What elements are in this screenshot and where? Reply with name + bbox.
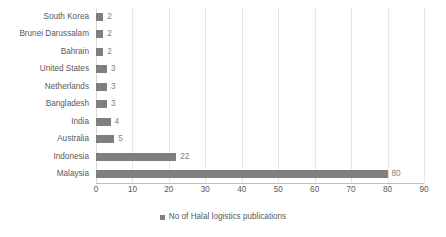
bar-row: South Korea2 bbox=[96, 8, 424, 26]
bar-value-label: 22 bbox=[180, 153, 189, 161]
bar-row: United States3 bbox=[96, 61, 424, 79]
bar-row: Indonesia22 bbox=[96, 148, 424, 166]
bar-value-label: 3 bbox=[111, 100, 116, 108]
x-tick-label: 40 bbox=[237, 186, 246, 194]
bar-row: Netherlands3 bbox=[96, 78, 424, 96]
bar bbox=[96, 65, 107, 73]
bar-value-label: 3 bbox=[111, 65, 116, 73]
category-label: Malaysia bbox=[57, 170, 89, 178]
x-axis-line bbox=[96, 183, 424, 184]
bar-value-label: 2 bbox=[107, 13, 112, 21]
category-label: Australia bbox=[57, 135, 89, 143]
bar bbox=[96, 83, 107, 91]
bar-row: India4 bbox=[96, 113, 424, 131]
category-label: United States bbox=[40, 65, 89, 73]
x-tick-label: 60 bbox=[310, 186, 319, 194]
x-tick-label: 50 bbox=[274, 186, 283, 194]
bar bbox=[96, 153, 176, 161]
x-tick-label: 10 bbox=[128, 186, 137, 194]
bar-value-label: 4 bbox=[115, 118, 120, 126]
category-label: Brunei Darussalam bbox=[19, 30, 89, 38]
plot-area: South Korea2Brunei Darussalam2Bahrain2Un… bbox=[96, 8, 424, 183]
legend-marker-icon bbox=[160, 215, 165, 220]
category-label: Bahrain bbox=[61, 48, 89, 56]
category-label: Bangladesh bbox=[46, 100, 89, 108]
x-axis-tick-labels: 0102030405060708090 bbox=[96, 186, 424, 200]
bar bbox=[96, 48, 103, 56]
bar-row: Bangladesh3 bbox=[96, 96, 424, 114]
bar-value-label: 2 bbox=[107, 48, 112, 56]
bar bbox=[96, 118, 111, 126]
x-tick-label: 20 bbox=[164, 186, 173, 194]
bar-value-label: 5 bbox=[118, 135, 123, 143]
category-label: Netherlands bbox=[45, 83, 89, 91]
bar-value-label: 3 bbox=[111, 83, 116, 91]
category-label: South Korea bbox=[43, 13, 89, 21]
bar bbox=[96, 100, 107, 108]
bar bbox=[96, 30, 103, 38]
chart-legend: No of Halal logistics publications bbox=[0, 213, 446, 221]
bar-value-label: 80 bbox=[392, 170, 401, 178]
bar bbox=[96, 135, 114, 143]
x-tick-label: 0 bbox=[94, 186, 99, 194]
x-tick-label: 70 bbox=[347, 186, 356, 194]
bar-chart: South Korea2Brunei Darussalam2Bahrain2Un… bbox=[0, 0, 446, 237]
bar-row: Brunei Darussalam2 bbox=[96, 26, 424, 44]
bar bbox=[96, 13, 103, 21]
bar-row: Malaysia80 bbox=[96, 166, 424, 184]
category-label: Indonesia bbox=[53, 153, 89, 161]
bar-row: Australia5 bbox=[96, 131, 424, 149]
legend-item-label: No of Halal logistics publications bbox=[169, 213, 286, 221]
bar-row: Bahrain2 bbox=[96, 43, 424, 61]
bar-value-label: 2 bbox=[107, 30, 112, 38]
bar bbox=[96, 170, 388, 178]
x-tick-label: 80 bbox=[383, 186, 392, 194]
x-tick-label: 90 bbox=[419, 186, 428, 194]
category-label: India bbox=[71, 118, 89, 126]
x-tick-label: 30 bbox=[201, 186, 210, 194]
gridline bbox=[424, 8, 425, 183]
